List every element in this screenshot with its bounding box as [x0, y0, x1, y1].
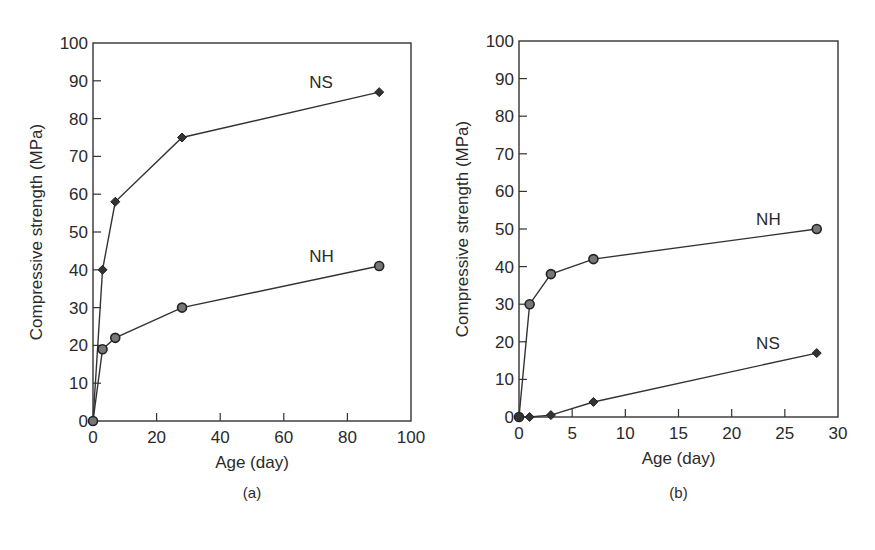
circle-marker-icon — [375, 262, 384, 271]
circle-marker-icon — [546, 270, 555, 279]
circle-marker-icon — [178, 303, 187, 312]
x-tick-label: 20 — [722, 424, 741, 443]
y-tick-label: 30 — [495, 295, 514, 314]
y-tick-label: 50 — [495, 220, 514, 239]
panel-caption: (b) — [669, 484, 687, 501]
y-tick-label: 10 — [495, 370, 514, 389]
y-tick-label: 100 — [60, 34, 88, 53]
series-label-ns: NS — [756, 334, 780, 353]
x-tick-label: 80 — [338, 428, 357, 447]
y-tick-label: 20 — [495, 333, 514, 352]
y-tick-label: 30 — [69, 299, 88, 318]
chart-b: 0102030405060708090100051015202530Age (d… — [453, 32, 847, 501]
y-tick-label: 100 — [486, 32, 514, 51]
diamond-marker-icon — [546, 411, 555, 420]
y-tick-label: 90 — [495, 70, 514, 89]
x-axis-label: Age (day) — [642, 449, 716, 468]
x-tick-label: 0 — [514, 424, 523, 443]
y-tick-label: 50 — [69, 223, 88, 242]
x-tick-label: 10 — [616, 424, 635, 443]
plot-frame — [519, 41, 838, 417]
y-tick-label: 40 — [495, 258, 514, 277]
circle-marker-icon — [98, 345, 107, 354]
circle-marker-icon — [525, 300, 534, 309]
diamond-marker-icon — [375, 88, 384, 97]
diamond-marker-icon — [589, 397, 598, 406]
y-tick-label: 20 — [69, 336, 88, 355]
chart-a: 0102030405060708090100020406080100Age (d… — [27, 34, 425, 501]
x-tick-label: 100 — [397, 428, 425, 447]
circle-marker-icon — [589, 255, 598, 264]
x-tick-label: 30 — [829, 424, 848, 443]
x-tick-label: 25 — [775, 424, 794, 443]
y-tick-label: 90 — [69, 72, 88, 91]
y-tick-label: 0 — [505, 408, 514, 427]
circle-marker-icon — [89, 417, 98, 426]
y-tick-label: 40 — [69, 261, 88, 280]
x-tick-label: 0 — [88, 428, 97, 447]
series-line-ns — [519, 353, 817, 417]
y-tick-label: 70 — [495, 145, 514, 164]
y-tick-label: 60 — [495, 182, 514, 201]
series-label-ns: NS — [309, 73, 333, 92]
diamond-marker-icon — [812, 349, 821, 358]
series-line-nh — [93, 266, 379, 421]
x-tick-label: 5 — [567, 424, 576, 443]
y-tick-label: 0 — [79, 412, 88, 431]
y-tick-label: 60 — [69, 185, 88, 204]
diamond-marker-icon — [98, 265, 107, 274]
series-line-nh — [519, 229, 817, 417]
x-axis-label: Age (day) — [215, 453, 289, 472]
series-line-ns — [93, 92, 379, 421]
series-label-nh: NH — [309, 247, 334, 266]
panel-caption: (a) — [243, 484, 261, 501]
y-tick-label: 80 — [495, 107, 514, 126]
x-tick-label: 60 — [274, 428, 293, 447]
y-axis-label: Compressive strength (MPa) — [453, 121, 472, 337]
circle-marker-icon — [812, 225, 821, 234]
diamond-marker-icon — [525, 413, 534, 422]
circle-marker-icon — [111, 333, 120, 342]
y-tick-label: 10 — [69, 374, 88, 393]
y-tick-label: 80 — [69, 110, 88, 129]
x-tick-label: 20 — [147, 428, 166, 447]
y-axis-label: Compressive strength (MPa) — [27, 124, 46, 340]
figure: 0102030405060708090100020406080100Age (d… — [0, 0, 875, 550]
series-label-nh: NH — [756, 210, 781, 229]
x-tick-label: 40 — [211, 428, 230, 447]
plot-frame — [93, 43, 411, 421]
y-tick-label: 70 — [69, 147, 88, 166]
x-tick-label: 15 — [669, 424, 688, 443]
